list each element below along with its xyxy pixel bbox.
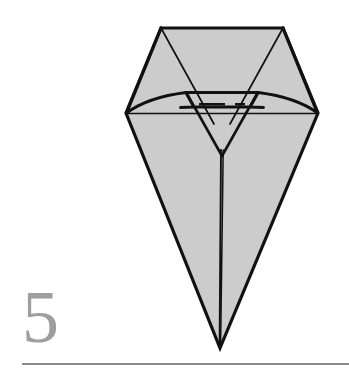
step-number: 5: [22, 279, 92, 355]
diagram-page: 5: [0, 0, 349, 381]
